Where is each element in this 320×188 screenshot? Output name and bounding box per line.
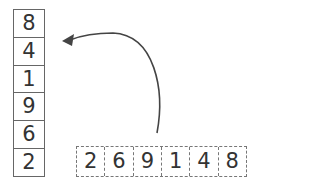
row-cell: 2 <box>77 147 105 176</box>
row-cell: 4 <box>190 147 218 176</box>
input-row: 2 6 9 1 4 8 <box>76 146 247 177</box>
row-cell: 9 <box>134 147 162 176</box>
row-cell: 8 <box>219 147 246 176</box>
row-cell: 1 <box>162 147 190 176</box>
row-cell: 6 <box>105 147 133 176</box>
